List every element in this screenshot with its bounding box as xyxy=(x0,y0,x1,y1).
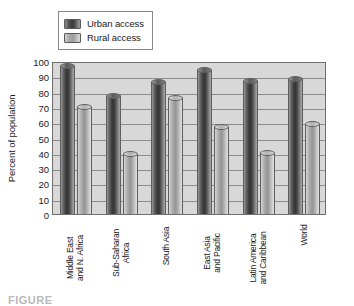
x-category-label-1: Sub-SaharanAfrica xyxy=(98,218,144,294)
y-tick-20: 20 xyxy=(38,180,49,189)
chart-legend: Urban access Rural access xyxy=(58,11,153,50)
y-tick-0: 0 xyxy=(44,211,49,220)
x-category-label-3: East Asiaand Pacific xyxy=(189,218,235,294)
x-category-label-text: Middle Eastand N. Africa xyxy=(65,235,85,281)
legend-swatch-urban-icon xyxy=(64,19,81,29)
bar-body xyxy=(260,153,275,214)
bar-urban-0 xyxy=(60,66,75,214)
y-tick-40: 40 xyxy=(38,149,49,158)
y-tick-70: 70 xyxy=(38,103,49,112)
bar-rural-0 xyxy=(77,107,92,214)
bar-body xyxy=(243,81,258,214)
y-tick-30: 30 xyxy=(38,165,49,174)
y-tick-50: 50 xyxy=(38,134,49,143)
x-category-label-5: World xyxy=(280,218,326,294)
x-category-label-text: South Asia xyxy=(161,227,171,266)
y-axis-title-text: Percent of population xyxy=(7,95,18,183)
x-category-label-text: World xyxy=(298,224,308,245)
bar-body xyxy=(151,82,166,214)
bar-body xyxy=(197,70,212,214)
bar-body xyxy=(106,96,121,214)
legend-label-urban: Urban access xyxy=(87,19,144,29)
bar-cap-ellipse xyxy=(168,95,183,101)
x-category-label-text: East Asiaand Pacific xyxy=(202,234,222,273)
bar-rural-4 xyxy=(260,153,275,214)
bar-cap-ellipse xyxy=(214,124,229,130)
bar-rural-3 xyxy=(214,127,229,214)
bar-cap-ellipse xyxy=(77,104,92,110)
bar-cap-ellipse xyxy=(305,121,320,127)
figure-caption: FIGURE xyxy=(8,294,53,306)
bar-cap-ellipse xyxy=(60,63,75,69)
y-tick-10: 10 xyxy=(38,195,49,204)
bar-series-container xyxy=(53,63,325,214)
bar-body xyxy=(214,127,229,214)
bar-cap-ellipse xyxy=(260,150,275,156)
bar-rural-5 xyxy=(305,124,320,214)
x-category-label-text: Latin Americaand Caribbean xyxy=(247,231,267,284)
plot-area xyxy=(52,62,326,215)
bar-rural-2 xyxy=(168,98,183,214)
y-tick-100: 100 xyxy=(33,58,49,67)
legend-swatch-rural-icon xyxy=(64,33,81,43)
x-category-label-0: Middle Eastand N. Africa xyxy=(52,218,98,294)
bar-rural-1 xyxy=(123,154,138,214)
bar-body xyxy=(288,79,303,214)
bar-cap-ellipse xyxy=(243,78,258,84)
y-axis-title: Percent of population xyxy=(5,62,19,215)
x-category-label-text: Sub-SaharanAfrica xyxy=(110,229,130,277)
bar-body xyxy=(123,154,138,214)
legend-item-urban-access: Urban access xyxy=(64,17,144,30)
y-tick-60: 60 xyxy=(38,119,49,128)
x-axis-category-labels: Middle Eastand N. AfricaSub-SaharanAfric… xyxy=(52,218,326,296)
legend-item-rural-access: Rural access xyxy=(64,31,144,44)
bar-urban-4 xyxy=(243,81,258,214)
x-category-label-2: South Asia xyxy=(143,218,189,294)
bar-urban-5 xyxy=(288,79,303,214)
y-tick-80: 80 xyxy=(38,88,49,97)
bar-body xyxy=(305,124,320,214)
bar-cap-ellipse xyxy=(106,93,121,99)
y-axis-tick-labels: 1009080706050403020100 xyxy=(22,62,49,215)
x-category-label-4: Latin Americaand Caribbean xyxy=(235,218,281,294)
bar-body xyxy=(77,107,92,214)
legend-label-rural: Rural access xyxy=(87,33,141,43)
bar-urban-1 xyxy=(106,96,121,214)
y-tick-90: 90 xyxy=(38,73,49,82)
bar-urban-3 xyxy=(197,70,212,214)
bar-body xyxy=(168,98,183,214)
bar-urban-2 xyxy=(151,82,166,214)
bar-body xyxy=(60,66,75,214)
